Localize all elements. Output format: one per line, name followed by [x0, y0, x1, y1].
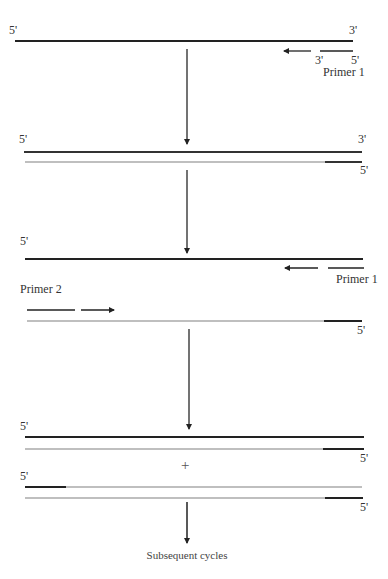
pcr-diagram: 5' 3' 3' 5' Primer 1 5' 3' 5' 5' Primer …	[0, 0, 388, 579]
stage3-top-5prime-label: 5'	[20, 234, 28, 248]
stage3-primer1-label: Primer 1	[336, 272, 378, 286]
stage4-pair1-bottom-5prime-label: 5'	[360, 451, 368, 465]
stage1-3prime-label: 3'	[349, 23, 357, 37]
stage1-5prime-label: 5'	[9, 23, 17, 37]
subsequent-cycles-label: Subsequent cycles	[147, 549, 228, 561]
stage4-pair2-top-5prime-label: 5'	[20, 469, 28, 483]
primer2-label: Primer 2	[20, 282, 62, 296]
stage3-bottom-5prime-label: 5'	[357, 323, 365, 337]
primer1-3prime-label: 3'	[315, 53, 323, 67]
stage2-top-3prime-label: 3'	[358, 132, 366, 146]
stage4-pair2-bottom-5prime-label: 5'	[360, 500, 368, 514]
primer1-label: Primer 1	[323, 65, 365, 79]
plus-sign: +	[181, 457, 189, 473]
stage2-top-5prime-label: 5'	[19, 132, 27, 146]
stage4-pair1-top-5prime-label: 5'	[20, 419, 28, 433]
stage2-bottom-5prime-label: 5'	[360, 163, 368, 177]
